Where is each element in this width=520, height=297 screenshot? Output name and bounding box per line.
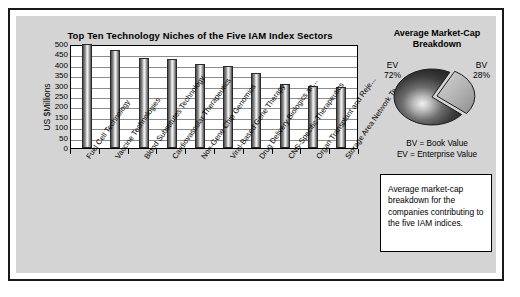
- pie-legend-line1: BV = Book Value: [378, 138, 496, 149]
- figure-panel: Top Ten Technology Niches of the Five IA…: [16, 16, 496, 273]
- pie-chart-title: Average Market-Cap Breakdown: [378, 28, 496, 50]
- bar-chart-title: Top Ten Technology Niches of the Five IA…: [30, 30, 370, 41]
- pie-chart-title-line1: Average Market-Cap: [378, 28, 496, 39]
- y-tick-label: 300: [55, 83, 68, 91]
- bar-slot: [73, 46, 101, 148]
- y-tick-label: 100: [55, 124, 68, 132]
- callout-box: Average market-cap breakdown for the com…: [380, 174, 492, 252]
- pie-chart-graphic: [392, 64, 484, 130]
- bar: [82, 44, 92, 148]
- y-tick-label: 250: [55, 93, 68, 101]
- y-tick-label: 150: [55, 114, 68, 122]
- figure-frame: Top Ten Technology Niches of the Five IA…: [8, 8, 504, 281]
- y-tick-label: 400: [55, 62, 68, 70]
- y-tick-label: 450: [55, 51, 68, 59]
- right-column: Average Market-Cap Breakdown EV 72% BV 2…: [378, 22, 496, 272]
- pie-chart: EV 72% BV 28%: [378, 54, 496, 134]
- bar-chart-x-axis-labels: Fuel Cell TechnologyVaccine Technologies…: [30, 152, 370, 264]
- pie-chart-title-line2: Breakdown: [378, 39, 496, 50]
- y-tick-label: 500: [55, 41, 68, 49]
- bar: [139, 58, 149, 148]
- bar-chart-y-axis-ticks: 500450400350300250200150100500: [44, 45, 68, 149]
- callout-text: Average market-cap breakdown for the com…: [388, 184, 485, 230]
- pie-chart-legend: BV = Book Value EV = Enterprise Value: [378, 138, 496, 160]
- bar-chart: Top Ten Technology Niches of the Five IA…: [30, 22, 370, 270]
- y-tick-label: 50: [59, 135, 68, 143]
- y-tick-label: 200: [55, 103, 68, 111]
- bar: [167, 59, 177, 148]
- bar: [110, 50, 120, 148]
- y-tick-label: 350: [55, 72, 68, 80]
- pie-legend-line2: EV = Enterprise Value: [378, 149, 496, 160]
